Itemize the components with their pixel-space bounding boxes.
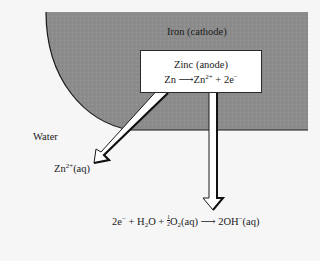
water-h: + H	[126, 216, 145, 227]
oxygen-state: (aq)	[181, 216, 201, 227]
zinc-ion-charge: 2+	[66, 162, 73, 170]
electrons: + 2e	[215, 74, 233, 85]
hydroxide-state: (aq)	[243, 216, 260, 227]
zinc-ion-state: (aq)	[73, 163, 90, 174]
reactant: Zn	[164, 74, 176, 85]
zinc-anode-box: Zinc (anode) Zn ⟶Zn2+ + 2e−	[140, 50, 262, 93]
electron-charge: −	[234, 73, 238, 81]
product: Zn	[194, 74, 206, 85]
oxygen: O	[170, 216, 178, 227]
reaction-arrow: ⟶	[201, 216, 216, 227]
electrons: 2e	[112, 216, 122, 227]
zinc-ion-base: Zn	[54, 163, 66, 174]
zinc-anode-reaction: Zn ⟶Zn2+ + 2e−	[141, 73, 261, 85]
iron-cathode-label: Iron (cathode)	[167, 27, 227, 38]
cathode-reaction: 2e− + H2O + 12O2(aq) ⟶ 2OH−(aq)	[112, 214, 260, 228]
product-charge: 2+	[205, 73, 212, 81]
zinc-anode-title: Zinc (anode)	[141, 59, 261, 70]
water-o: O +	[148, 216, 167, 227]
reaction-arrow: ⟶	[179, 74, 194, 85]
water-label: Water	[33, 132, 58, 143]
zinc-ion-label: Zn2+(aq)	[54, 164, 90, 175]
hydroxide: 2OH	[216, 216, 239, 227]
